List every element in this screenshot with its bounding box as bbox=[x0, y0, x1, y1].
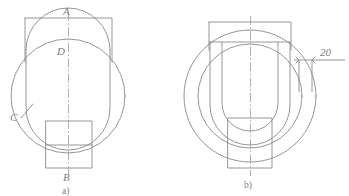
label-d: D bbox=[56, 45, 65, 57]
dimension-20-group: 20 bbox=[294, 46, 345, 92]
technical-drawing-figure: A D C B a) bbox=[0, 0, 349, 196]
drawing-canvas: A D C B a) bbox=[0, 0, 349, 196]
view-b-outer-circle bbox=[184, 30, 316, 162]
view-a-u-body bbox=[26, 50, 110, 150]
view-a-outer-circle bbox=[11, 39, 125, 153]
view-a-group: A D C B a) bbox=[10, 5, 125, 196]
view-b-inner-circle bbox=[198, 44, 302, 148]
dimension-20-text: 20 bbox=[320, 46, 332, 58]
view-b-top-rectangle bbox=[209, 22, 291, 50]
label-c: C bbox=[10, 111, 18, 123]
caption-b: b) bbox=[244, 180, 252, 191]
caption-a: a) bbox=[62, 186, 69, 196]
view-b-group: 20 b) bbox=[184, 16, 345, 191]
label-a: A bbox=[62, 5, 70, 17]
label-b: B bbox=[63, 171, 70, 183]
view-a-bottom-rectangle bbox=[46, 121, 92, 168]
